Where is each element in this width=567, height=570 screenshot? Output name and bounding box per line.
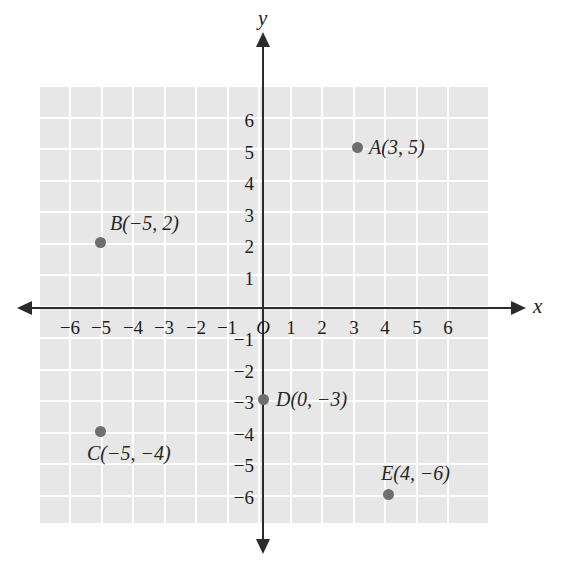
x-axis-line [25,307,523,309]
y-tick-neg5: −5 [218,456,254,475]
y-axis-arrow-down [256,539,270,554]
point-c-dot[interactable] [95,426,106,437]
x-tick-6: 6 [437,318,459,337]
x-tick-2: 2 [311,318,333,337]
coordinate-plane: y x −6 −5 −4 −3 −2 −1 O 1 2 3 4 5 6 6 5 … [0,0,567,570]
y-tick-neg4: −4 [218,425,254,444]
point-d-dot[interactable] [258,394,269,405]
y-tick-6: 6 [228,111,254,130]
point-b-dot[interactable] [95,237,106,248]
x-tick-1: 1 [280,318,302,337]
x-axis-arrow-left [17,301,32,315]
y-tick-4: 4 [228,174,254,193]
origin-label: O [252,318,274,337]
x-tick-4: 4 [374,318,396,337]
y-tick-neg6: −6 [218,488,254,507]
y-tick-neg2: −2 [218,362,254,381]
y-tick-neg3: −3 [218,393,254,412]
point-c-label: C(−5, −4) [87,443,171,463]
y-axis-label: y [258,8,267,29]
point-d-label: D(0, −3) [276,389,347,409]
y-tick-1: 1 [228,269,254,288]
y-tick-3: 3 [228,206,254,225]
y-axis-arrow-up [256,32,270,47]
x-tick-neg3: −3 [149,318,179,337]
point-a-dot[interactable] [352,142,363,153]
x-tick-neg5: −5 [86,318,116,337]
x-tick-neg6: −6 [55,318,85,337]
x-axis-label: x [533,296,542,317]
point-e-label: E(4, −6) [381,463,450,483]
point-e-dot[interactable] [383,489,394,500]
x-axis-arrow-right [511,301,526,315]
x-tick-neg2: −2 [181,318,211,337]
y-axis-line [262,45,264,545]
point-a-label: A(3, 5) [369,137,425,157]
y-tick-5: 5 [228,143,254,162]
x-tick-3: 3 [343,318,365,337]
y-tick-neg1: −1 [218,330,254,349]
point-b-label: B(−5, 2) [110,213,179,233]
x-tick-5: 5 [406,318,428,337]
y-tick-2: 2 [228,237,254,256]
x-tick-neg4: −4 [118,318,148,337]
